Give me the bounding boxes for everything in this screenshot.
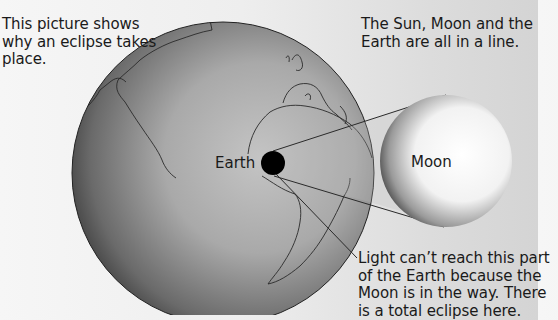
moon-label: Moon bbox=[411, 153, 452, 171]
earth-label: Earth bbox=[215, 154, 255, 172]
caption-total-eclipse: Light can’t reach this part of the Earth… bbox=[358, 250, 558, 320]
caption-alignment: The Sun, Moon and the Earth are all in a… bbox=[361, 16, 536, 51]
caption-intro: This picture shows why an eclipse takes … bbox=[2, 16, 172, 69]
eclipse-shadow-spot bbox=[261, 151, 285, 175]
